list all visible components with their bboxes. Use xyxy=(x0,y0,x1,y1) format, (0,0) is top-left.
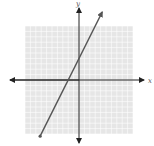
y-axis-label: y xyxy=(75,0,81,8)
coordinate-graph: x y xyxy=(0,0,154,146)
line-start-dot xyxy=(39,135,42,138)
x-axis-label: x xyxy=(148,77,152,85)
